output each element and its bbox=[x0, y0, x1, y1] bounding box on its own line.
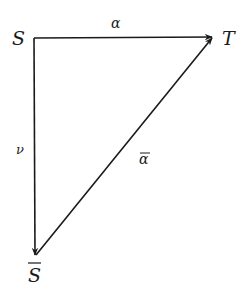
edge-alpha-bar-label: α bbox=[139, 151, 149, 167]
node-t-label: T bbox=[222, 27, 236, 49]
edge-alpha-bar-arrow bbox=[36, 38, 212, 255]
edge-alpha-arrow bbox=[34, 37, 212, 38]
commutative-diagram: S T S α ν α bbox=[0, 0, 247, 293]
edge-nu-label: ν bbox=[16, 142, 24, 157]
edge-alpha-bar: α bbox=[139, 151, 150, 167]
edge-nu-arrow bbox=[34, 38, 35, 255]
node-s-bar: S bbox=[28, 263, 41, 286]
edge-alpha-label: α bbox=[111, 15, 121, 31]
node-s-label: S bbox=[12, 27, 25, 49]
node-s-bar-label: S bbox=[28, 264, 41, 286]
